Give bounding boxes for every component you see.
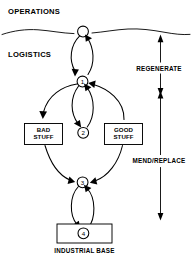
node-2-circle: 2 [78,127,89,138]
node-2-label: 2 [81,129,85,136]
label-regenerate-group: REGENERATE [126,63,192,74]
edge-node3-to-node4 [71,187,80,229]
edge-node1-to-top-left [71,36,79,76]
box-bad-stuff[interactable]: BAD STUFF [25,124,63,145]
edge-good-stuff-to-node1 [88,81,124,120]
edge-node2-to-node1 [84,84,93,127]
label-operations: OPERATIONS [8,7,60,16]
edge-node4-to-node3 [84,185,94,228]
bad-stuff-line2: STUFF [33,133,53,140]
label-regenerate: REGENERATE [136,65,181,72]
label-industrial-base: INDUSTRIAL BASE [54,247,114,254]
edge-good-stuff-to-node3 [90,146,123,185]
operations-logistics-boundary-wave [2,29,190,35]
node-top-circle [78,26,89,37]
node-3-label: 3 [81,179,85,186]
label-mend-replace: MEND/REPLACE [133,157,186,164]
box-good-stuff[interactable]: GOOD STUFF [105,124,143,145]
bad-stuff-line1: BAD [37,126,51,133]
diagram-canvas: 1 2 BAD STUFF [0,0,192,260]
edge-node1-to-bad-stuff [39,84,77,119]
good-stuff-line2: STUFF [113,133,133,140]
label-logistics: LOGISTICS [8,50,51,59]
edge-node1-to-top-right [85,34,93,74]
good-stuff-line1: GOOD [114,126,134,133]
edge-bad-stuff-to-node3 [45,146,75,185]
label-mend-replace-group: MEND/REPLACE [122,155,192,166]
node-4-label: 4 [82,230,86,237]
edge-node1-to-node2 [72,86,81,128]
diagram-svg: 1 2 BAD STUFF [0,0,192,260]
node-4-circle: 4 [78,228,89,239]
